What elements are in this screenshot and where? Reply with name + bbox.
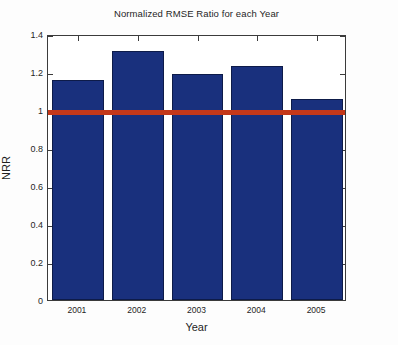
chart-title: Normalized RMSE Ratio for each Year [47,8,346,19]
x-axis-tick-mark-top [78,36,79,41]
x-axis-tick-label-2004: 2004 [247,305,266,315]
y-axis-tick-label: 0 [38,296,47,306]
y-axis-tick-mark-right [340,74,345,75]
y-axis-label: NRR [0,156,12,180]
y-axis-tick-label: 0.6 [30,182,47,192]
y-axis-tick-label: 1.4 [30,30,47,40]
reference-line-at-one [48,110,345,115]
x-axis-tick-label-2005: 2005 [307,305,326,315]
chart-figure: Normalized RMSE Ratio for each Year NRR … [0,0,398,345]
x-axis-tick-label-2002: 2002 [127,305,146,315]
x-axis-tick-mark-top [198,36,199,41]
y-axis-tick-mark [48,36,53,37]
y-axis-tick-label: 0.8 [30,144,47,154]
y-axis-tick-label: 0.4 [30,220,47,230]
y-axis-tick-label: 1.2 [30,68,47,78]
y-axis-tick-mark [48,74,53,75]
y-axis-tick-label: 1 [38,106,47,116]
bar-2002 [112,51,164,300]
plot-area [47,35,346,301]
x-axis-tick-label-2001: 2001 [67,305,86,315]
bar-2005 [291,99,343,300]
x-axis-tick-mark-top [138,36,139,41]
y-axis-tick-label: 0.2 [30,258,47,268]
bar-2004 [231,66,283,300]
x-axis-tick-mark-top [317,36,318,41]
x-axis-tick-label-2003: 2003 [187,305,206,315]
y-axis-tick-mark-right [340,36,345,37]
x-axis-tick-mark-top [257,36,258,41]
bar-2003 [172,74,224,300]
x-axis-label: Year [47,321,346,333]
